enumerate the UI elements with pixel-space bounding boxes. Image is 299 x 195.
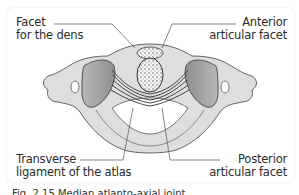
label-facet-for-dens: Facet for the dens xyxy=(16,16,83,42)
label-anterior-articular-facet: Anterior articular facet xyxy=(209,16,287,42)
label-line: articular facet xyxy=(209,166,287,179)
label-line: ligament of the atlas xyxy=(16,166,131,179)
label-line: articular facet xyxy=(209,29,287,42)
dens xyxy=(137,58,163,92)
label-line: for the dens xyxy=(16,29,83,42)
figure-caption: Fig. 2.15 Median atlanto-axial joint xyxy=(12,188,185,195)
label-transverse-ligament: Transverse ligament of the atlas xyxy=(16,153,131,179)
label-posterior-articular-facet: Posterior articular facet xyxy=(209,153,287,179)
facet-for-dens xyxy=(137,47,163,59)
